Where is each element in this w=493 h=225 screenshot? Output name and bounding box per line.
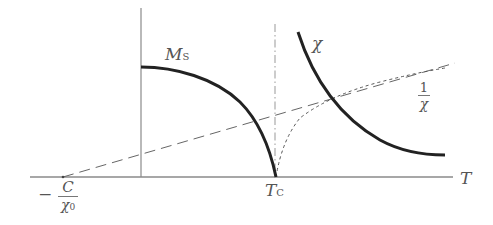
- asymptote-line: [63, 63, 455, 177]
- inverse-chi-label: 1 χ: [418, 81, 430, 111]
- ms-label: MS: [165, 46, 189, 63]
- ms-curve: [141, 67, 276, 177]
- tc-label: TC: [265, 182, 284, 199]
- chi-label: χ: [312, 35, 322, 52]
- minus-sign: −: [38, 186, 52, 203]
- x-axis-label: T: [460, 170, 471, 187]
- intercept-label: C χ0: [58, 180, 78, 212]
- curie-weiss-diagram: MS χ 1 χ T TC − C χ0: [0, 0, 493, 225]
